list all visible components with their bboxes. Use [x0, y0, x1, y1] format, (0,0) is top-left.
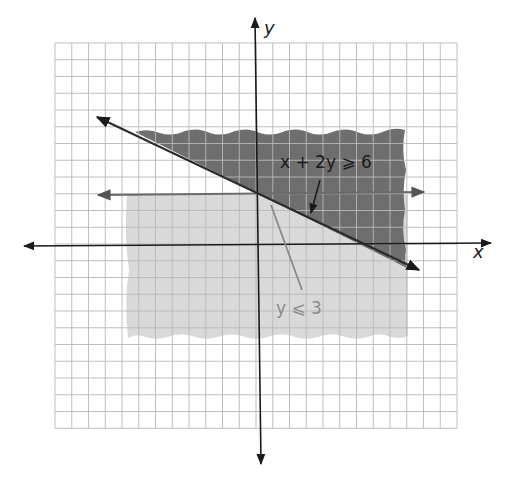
inequality-label-1: x + 2y ⩾ 6: [280, 152, 372, 172]
y-axis-label: y: [263, 17, 275, 38]
inequality-label-2: y ⩽ 3: [276, 298, 322, 318]
inequality-graph: y x x + 2y ⩾ 6 y ⩽ 3: [0, 0, 509, 482]
x-axis-label: x: [472, 241, 484, 262]
